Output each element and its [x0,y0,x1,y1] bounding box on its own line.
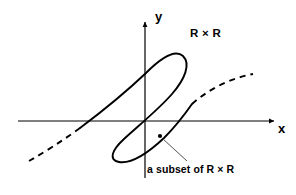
y-axis-label: y [155,10,162,23]
curve-solid-subset [80,54,192,163]
caption-leader-line [163,139,187,161]
curve-dashed-tail-right [192,74,253,104]
x-axis-label: x [278,122,285,135]
curve-point-marker [158,134,162,138]
curve-dashed-tail-left [29,128,80,161]
plane-label: R × R [190,28,221,40]
figure-canvas: y x R × R a subset of R × R [0,0,296,195]
subset-caption: a subset of R × R [147,164,234,175]
